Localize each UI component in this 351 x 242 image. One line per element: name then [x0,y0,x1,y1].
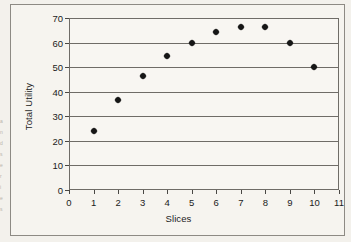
y-axis-title: Total Utility [23,62,34,152]
y-tick-label-10: 10 [52,160,63,171]
y-tick-label-50: 50 [52,62,63,73]
x-tick-mark-9 [290,190,291,194]
y-tick-label-70: 70 [52,13,63,24]
figure-frame: Total Utility Slices 010203040506070 012… [10,4,345,236]
gridline-y-10 [69,165,339,166]
plot-area: 010203040506070 01234567891011 [69,18,339,190]
y-tick-mark-30 [65,116,69,117]
gridline-y-50 [69,67,339,68]
x-tick-label-1: 1 [91,197,96,208]
gridline-y-30 [69,116,339,117]
plot-frame [69,18,339,190]
gridline-y-40 [69,92,339,93]
margin-artifact-fragment: d [0,140,9,146]
x-tick-label-10: 10 [309,197,320,208]
x-tick-label-2: 2 [115,197,120,208]
x-tick-mark-10 [314,190,315,194]
margin-artifact-fragment: n [0,129,9,135]
x-tick-mark-3 [143,190,144,194]
x-tick-mark-11 [339,190,340,194]
y-tick-mark-20 [65,141,69,142]
y-tick-label-0: 0 [58,185,63,196]
x-tick-mark-1 [94,190,95,194]
y-tick-mark-50 [65,67,69,68]
x-tick-mark-4 [167,190,168,194]
y-tick-mark-40 [65,92,69,93]
y-tick-mark-60 [65,43,69,44]
x-tick-label-8: 8 [263,197,268,208]
y-tick-label-60: 60 [52,37,63,48]
x-tick-label-5: 5 [189,197,194,208]
x-tick-label-0: 0 [66,197,71,208]
margin-artifact-fragment: s [0,151,9,157]
x-tick-mark-7 [241,190,242,194]
margin-artifact-fragment: e [0,162,9,168]
x-tick-mark-8 [265,190,266,194]
x-tick-mark-5 [192,190,193,194]
margin-artifact-fragment: s [0,206,9,212]
y-tick-mark-70 [65,18,69,19]
x-tick-label-9: 9 [287,197,292,208]
margin-artifact-fragment: r [0,173,9,179]
y-tick-label-20: 20 [52,135,63,146]
gridline-y-70 [69,18,339,19]
x-tick-label-4: 4 [165,197,170,208]
gridline-y-60 [69,43,339,44]
margin-artifact-fragment: i [0,184,9,190]
x-tick-label-3: 3 [140,197,145,208]
x-tick-mark-6 [216,190,217,194]
x-tick-label-11: 11 [334,197,344,208]
scanned-page-background: andseries Total Utility Slices 010203040… [0,0,351,242]
x-axis-title: Slices [11,213,346,224]
margin-artifact-fragment: a [0,118,9,124]
margin-scan-artifacts: andseries [0,0,9,242]
y-tick-label-40: 40 [52,86,63,97]
x-tick-mark-2 [118,190,119,194]
gridline-y-20 [69,141,339,142]
y-tick-label-30: 30 [52,111,63,122]
x-tick-label-6: 6 [214,197,219,208]
y-tick-mark-10 [65,165,69,166]
x-tick-mark-0 [69,190,70,194]
x-tick-label-7: 7 [238,197,243,208]
margin-artifact-fragment: e [0,195,9,201]
